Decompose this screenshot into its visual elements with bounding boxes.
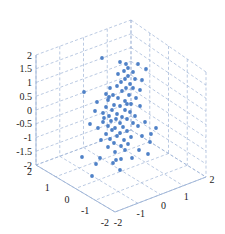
data-point (136, 62, 140, 66)
data-point (127, 93, 131, 97)
z-tick-label: 2 (27, 50, 32, 61)
y-tick-label: 0 (65, 194, 70, 205)
data-point (123, 77, 127, 81)
data-point (130, 156, 134, 160)
data-point (108, 86, 112, 90)
data-point (118, 60, 122, 64)
data-point (136, 124, 140, 128)
data-point (125, 129, 129, 133)
data-point (128, 82, 132, 86)
x-tick-label: 1 (184, 191, 189, 202)
data-point (115, 134, 119, 138)
data-point (102, 116, 106, 120)
data-point (154, 126, 158, 130)
data-point (116, 96, 120, 100)
data-point (106, 124, 110, 128)
grid-line (107, 139, 183, 186)
data-point (115, 84, 119, 88)
x-tick-label: 2 (210, 174, 215, 185)
data-point (94, 162, 98, 166)
data-point (109, 119, 113, 123)
data-point (124, 86, 128, 90)
data-point (88, 122, 92, 126)
data-point (112, 103, 116, 107)
data-point (118, 131, 122, 135)
data-point (108, 137, 112, 141)
scatter3d-chart: 21.510.50-0.5-1-1.5-2210-1-2-2-1012 (0, 0, 225, 234)
x-tick-label: -2 (114, 217, 122, 228)
data-point (131, 121, 135, 125)
data-point (128, 110, 132, 114)
data-point (149, 132, 153, 136)
z-tick-label: -0.5 (16, 118, 32, 129)
data-point (107, 95, 111, 99)
data-point (140, 134, 144, 138)
data-point (125, 117, 129, 121)
data-point (99, 138, 103, 142)
data-point (148, 140, 152, 144)
data-point (133, 114, 137, 118)
data-point (138, 88, 142, 92)
data-point (122, 138, 126, 142)
z-tick-label: 1.5 (20, 63, 33, 74)
data-point (95, 100, 99, 104)
data-point (98, 156, 102, 160)
x-tick-label: 0 (161, 200, 166, 211)
data-point (131, 70, 135, 74)
y-tick-label: -2 (101, 217, 109, 228)
data-point (107, 114, 111, 118)
z-tick-label: 0.5 (20, 91, 33, 102)
data-point (126, 142, 130, 146)
data-point (106, 145, 110, 149)
data-point (122, 69, 126, 73)
data-point (118, 104, 122, 108)
data-point (119, 157, 123, 161)
data-point (82, 90, 86, 94)
data-point (114, 158, 118, 162)
data-point (120, 115, 124, 119)
data-point (126, 74, 130, 78)
data-point (144, 67, 148, 71)
z-tick-label: -1.5 (16, 146, 32, 157)
x-tick-label: -1 (137, 208, 145, 219)
data-point (118, 121, 122, 125)
data-point (143, 120, 147, 124)
data-point (100, 56, 104, 60)
data-point (111, 161, 115, 165)
data-point (129, 102, 133, 106)
data-point (129, 135, 133, 139)
data-point (119, 80, 123, 84)
data-point (118, 168, 122, 172)
data-point (123, 108, 127, 112)
data-point (101, 120, 105, 124)
y-tick-label: 2 (27, 166, 32, 177)
data-point (133, 77, 137, 81)
data-point (80, 155, 84, 159)
z-tick-label: -1 (24, 132, 32, 143)
data-point (101, 111, 105, 115)
data-point (116, 72, 120, 76)
data-point (146, 152, 150, 156)
data-point (104, 92, 108, 96)
grid-line (95, 165, 187, 200)
data-point (113, 150, 117, 154)
data-point (93, 109, 97, 113)
data-point (90, 174, 94, 178)
data-point (96, 126, 100, 130)
data-point (114, 117, 118, 121)
data-point (126, 66, 130, 70)
data-point (112, 141, 116, 145)
y-tick-label: 1 (45, 182, 50, 193)
z-tick-label: 0 (27, 105, 32, 116)
data-point (123, 148, 127, 152)
data-point (134, 96, 138, 100)
data-point (125, 102, 129, 106)
data-point (104, 105, 108, 109)
data-point (110, 128, 114, 132)
z-tick-label: 1 (27, 77, 32, 88)
data-point (119, 144, 123, 148)
tick-labels: 21.510.50-0.5-1-1.5-2210-1-2-2-1012 (16, 50, 214, 229)
data-point (120, 89, 124, 93)
data-point (115, 112, 119, 116)
data-point (111, 93, 115, 97)
